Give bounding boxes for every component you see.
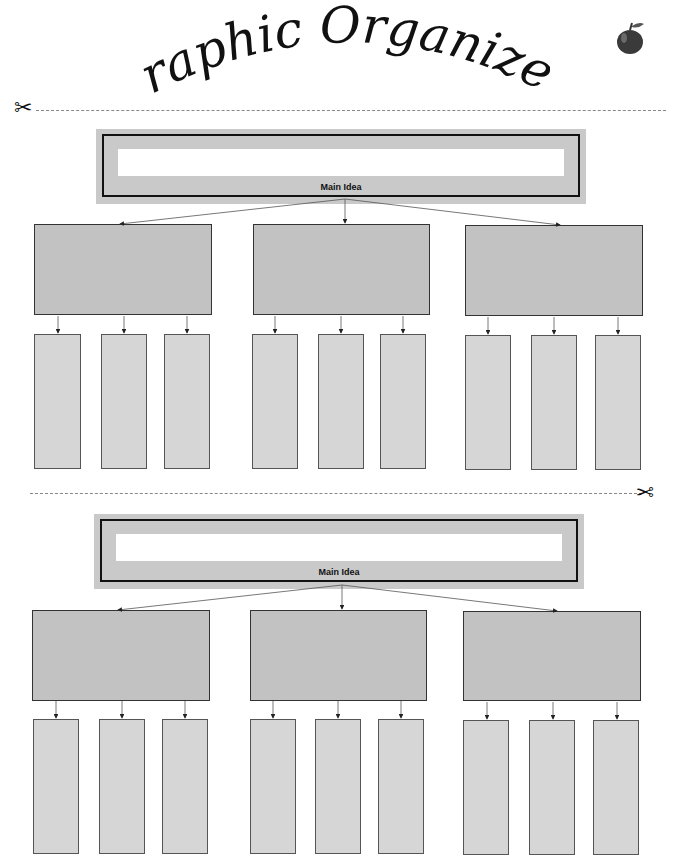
detail-box[interactable] [253, 224, 430, 315]
sub-detail-box[interactable] [593, 720, 639, 855]
main-idea-input[interactable] [118, 149, 564, 176]
sub-detail-box[interactable] [531, 335, 577, 470]
sub-detail-box[interactable] [34, 334, 81, 469]
detail-box[interactable] [250, 610, 427, 701]
detail-box[interactable] [463, 611, 641, 701]
main-idea-label: Main Idea [102, 567, 576, 577]
page-title: Graphic Organizer [130, 0, 550, 100]
sub-detail-box[interactable] [380, 334, 426, 469]
sub-detail-box[interactable] [33, 719, 79, 854]
sub-detail-box[interactable] [465, 335, 511, 470]
main-idea-box: Main Idea [100, 519, 578, 582]
sub-detail-box[interactable] [378, 719, 424, 854]
main-idea-box: Main Idea [102, 134, 580, 197]
cut-line-middle [30, 493, 642, 494]
svg-text:Graphic Organizer: Graphic Organizer [130, 0, 550, 100]
scissors-icon: ✂ [636, 482, 654, 504]
sub-detail-box[interactable] [463, 720, 509, 855]
main-idea-label: Main Idea [104, 182, 578, 192]
detail-box[interactable] [34, 224, 212, 315]
sub-detail-box[interactable] [250, 719, 296, 854]
scissors-icon: ✂ [14, 97, 32, 119]
main-idea-frame: Main Idea [94, 514, 584, 589]
main-idea-input[interactable] [116, 534, 562, 561]
sub-detail-box[interactable] [164, 334, 210, 469]
sub-detail-box[interactable] [318, 334, 364, 469]
sub-detail-box[interactable] [101, 334, 147, 469]
sub-detail-box[interactable] [595, 335, 641, 470]
sub-detail-box[interactable] [315, 719, 361, 854]
main-idea-frame: Main Idea [96, 129, 586, 204]
apple-icon [614, 20, 648, 56]
detail-box[interactable] [465, 225, 643, 316]
cut-line-top [36, 110, 666, 111]
sub-detail-box[interactable] [162, 719, 208, 854]
sub-detail-box[interactable] [99, 719, 145, 854]
detail-box[interactable] [32, 610, 210, 701]
sub-detail-box[interactable] [252, 334, 298, 469]
page-title-text: Graphic Organizer [130, 0, 550, 100]
sub-detail-box[interactable] [529, 720, 575, 855]
